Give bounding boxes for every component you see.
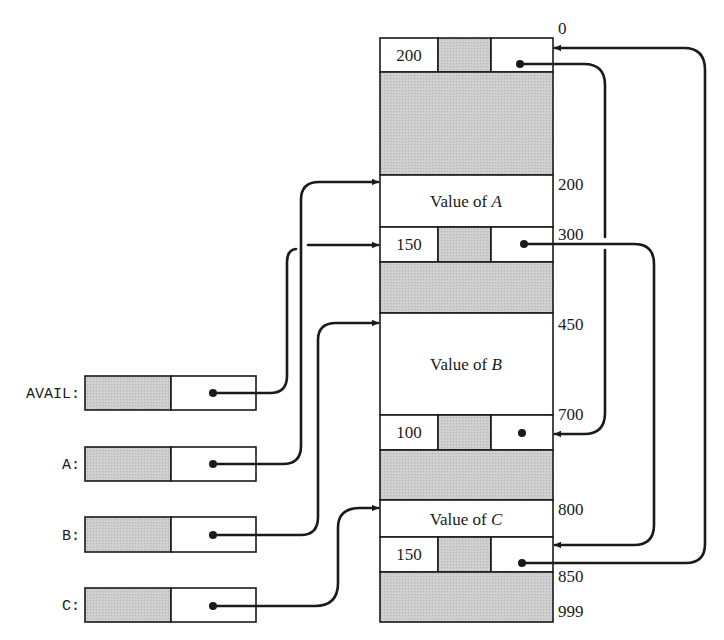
null-link-dot-700	[518, 429, 526, 437]
tag-field	[438, 537, 491, 572]
size-value-0: 200	[396, 46, 422, 65]
pointer-label-b: B:	[62, 528, 80, 545]
address-label-999: 999	[558, 602, 584, 621]
pointer-tag-field	[85, 588, 171, 622]
address-label-200: 200	[558, 175, 584, 194]
var-name: B	[491, 355, 502, 374]
address-label-450: 450	[558, 315, 584, 334]
pointer-label-avail: AVAIL:	[26, 386, 80, 403]
pointer-dot-avail	[209, 389, 217, 397]
address-label-850: 850	[558, 567, 584, 586]
size-value-850: 150	[396, 545, 422, 564]
pointer-tag-field	[85, 376, 171, 410]
value-prefix: Value of	[430, 355, 491, 374]
tag-field	[438, 227, 491, 262]
link-dot-850	[518, 559, 526, 567]
address-label-300: 300	[558, 225, 584, 244]
free-block-body-0	[380, 72, 553, 175]
pointer-label-a: A:	[62, 457, 80, 474]
value-prefix: Value of	[430, 192, 491, 211]
pointer-tag-field	[85, 447, 171, 481]
pointer-tag-field	[85, 517, 171, 552]
value-label-b: Value of B	[430, 355, 502, 374]
value-label-a: Value of A	[430, 192, 502, 211]
tag-field	[438, 38, 491, 72]
memory-column	[380, 38, 553, 622]
size-value-300: 150	[396, 235, 422, 254]
var-name: A	[490, 192, 502, 211]
arrow-b-to-450	[213, 323, 378, 535]
pointer-label-c: C:	[62, 598, 80, 615]
var-name: C	[491, 510, 503, 529]
tag-field	[438, 415, 491, 450]
free-block-body-850	[380, 572, 553, 622]
memory-allocation-diagram: 200 150 100 150 Value of A Value of B Va…	[0, 0, 724, 640]
value-prefix: Value of	[430, 510, 491, 529]
address-label-0: 0	[558, 19, 567, 38]
link-dot-300	[520, 240, 528, 248]
pointer-dot-a	[209, 460, 217, 468]
free-block-body-700	[380, 450, 553, 500]
link-dot-0	[516, 60, 524, 68]
pointer-dot-c	[209, 602, 217, 610]
address-label-700: 700	[558, 405, 584, 424]
size-value-700: 100	[396, 423, 422, 442]
value-label-c: Value of C	[430, 510, 503, 529]
free-block-body-300	[380, 262, 553, 313]
address-label-800: 800	[558, 500, 584, 519]
arrow-avail-to-300	[213, 249, 296, 393]
pointer-dot-b	[209, 531, 217, 539]
